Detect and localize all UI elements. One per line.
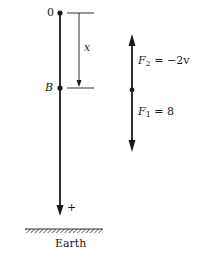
origin-label: 0 [47, 7, 54, 18]
position-axis [57, 10, 64, 216]
free-body-diagram [0, 0, 198, 261]
displacement-label: x [84, 42, 90, 53]
ground [25, 229, 103, 233]
ground-label: Earth [55, 238, 86, 249]
point-b-label: B [45, 82, 53, 93]
body-point [130, 88, 135, 93]
origin-point [57, 10, 62, 15]
force-down-arrowhead-icon [129, 140, 136, 152]
force-f1-label: F1 = 8 [138, 106, 174, 119]
dimension-arrowhead-icon [77, 80, 82, 87]
positive-direction-label: + [67, 202, 76, 213]
force-up-arrowhead-icon [129, 34, 136, 46]
force-vector [129, 34, 136, 152]
point-b [57, 85, 62, 90]
force-f2-label: F2 = −2v [138, 55, 189, 68]
axis-arrowhead-icon [57, 205, 64, 216]
